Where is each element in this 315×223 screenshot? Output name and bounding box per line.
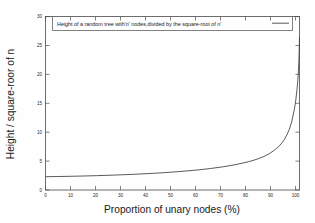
y-tick-label: 15	[37, 101, 43, 106]
y-tick-label: 25	[37, 43, 43, 48]
chart-figure: 0 5 10 15 20 25 30 0	[0, 0, 315, 223]
y-tick-label: 30	[37, 14, 43, 19]
x-tick-label: 10	[68, 193, 74, 198]
x-tick-label: 60	[193, 193, 199, 198]
plot-frame	[46, 17, 300, 191]
legend-entry-label: Height of a random tree with'n' nodes,di…	[57, 21, 221, 27]
x-axis-ticks: 0 10 20 30 40 50 60 70 80	[44, 17, 300, 198]
x-tick-label: 40	[143, 193, 149, 198]
x-axis-title: Proportion of unary nodes (%)	[104, 204, 240, 215]
x-tick-label: 30	[118, 193, 124, 198]
chart-legend: Height of a random tree with'n' nodes,di…	[53, 17, 293, 31]
x-tick-label: 80	[243, 193, 249, 198]
y-tick-label: 20	[37, 72, 43, 77]
x-tick-label: 70	[218, 193, 224, 198]
line-chart: 0 5 10 15 20 25 30 0	[0, 0, 315, 223]
y-axis-ticks: 0 5 10 15 20 25 30	[37, 14, 300, 192]
x-tick-label: 100	[292, 193, 300, 198]
x-tick-label: 20	[93, 193, 99, 198]
y-tick-label: 0	[39, 188, 42, 193]
y-axis-title: Height / square-roor of n	[5, 49, 16, 159]
x-tick-label: 50	[168, 193, 174, 198]
x-tick-label: 0	[44, 193, 47, 198]
y-tick-label: 5	[39, 159, 42, 164]
x-tick-label: 90	[268, 193, 274, 198]
y-tick-label: 10	[37, 130, 43, 135]
data-series-line	[46, 37, 300, 177]
